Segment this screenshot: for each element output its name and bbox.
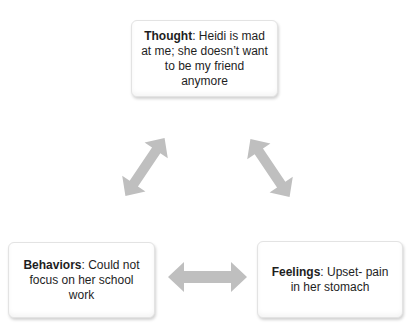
double-arrow-thought-behaviors-icon [114,130,176,204]
thought-node: Thought: Heidi is mad at me; she doesn’t… [131,20,278,97]
behaviors-node-text: Behaviors: Could not focus on her school… [17,258,146,303]
feelings-node: Feelings: Upset- pain in her stomach [257,241,403,318]
double-arrow-behaviors-feelings-icon [168,262,247,292]
feelings-node-text: Feelings: Upset- pain in her stomach [266,265,394,295]
thought-label: Thought [144,29,192,43]
behaviors-label: Behaviors [23,258,81,272]
double-arrow-thought-feelings-icon [239,131,301,205]
feelings-label: Feelings [272,265,321,279]
thought-node-text: Thought: Heidi is mad at me; she doesn’t… [140,29,269,89]
behaviors-node: Behaviors: Could not focus on her school… [8,242,155,318]
